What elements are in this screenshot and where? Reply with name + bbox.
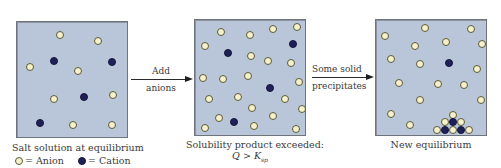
anion-particle-icon	[416, 96, 424, 104]
cation-particle-icon	[445, 59, 453, 67]
panel-new-equilibrium	[375, 19, 487, 136]
anion-particle-icon	[460, 81, 468, 89]
k-symbol: K	[254, 150, 261, 161]
panel-exceeded	[194, 19, 306, 136]
anion-particle-icon	[421, 24, 429, 32]
anion-particle-icon	[109, 91, 117, 99]
anion-particle-icon	[449, 126, 457, 134]
anion-particle-icon	[247, 52, 255, 60]
anion-particle-icon	[69, 121, 77, 129]
anion-particle-icon	[442, 38, 450, 46]
anion-particle-icon	[108, 121, 116, 129]
anion-particle-icon	[381, 32, 389, 40]
cation-particle-icon	[266, 84, 274, 92]
legend-anion-label: = Anion	[25, 155, 64, 166]
q-symbol: Q	[232, 150, 240, 161]
anion-particle-icon	[234, 93, 242, 101]
caption-exceeded-line1: Solubility product exceeded:	[186, 139, 314, 150]
anion-particle-icon	[56, 31, 64, 39]
arrow1-top-label: Add	[130, 66, 192, 76]
anion-particle-icon	[295, 78, 303, 86]
caption-new-equilibrium: New equilibrium	[375, 139, 487, 150]
cation-particle-icon	[224, 49, 232, 57]
arrow1-line	[131, 79, 187, 80]
anion-particle-icon	[434, 80, 442, 88]
cation-particle-icon	[457, 126, 465, 134]
cation-particle-icon	[289, 40, 297, 48]
legend-anion: = Anion	[15, 155, 64, 166]
anion-particle-icon	[205, 95, 213, 103]
anion-particle-icon	[248, 104, 256, 112]
anion-particle-icon	[473, 65, 481, 73]
anion-particle-icon	[387, 55, 395, 63]
anion-particle-icon	[441, 118, 449, 126]
panel-equilibrium	[16, 21, 128, 138]
anion-particle-icon	[293, 23, 301, 31]
anion-particle-icon	[477, 96, 485, 104]
anion-particle-icon	[298, 105, 306, 113]
legend-cation-label: = Cation	[88, 155, 131, 166]
anion-particle-icon	[94, 37, 102, 45]
anion-particle-icon	[287, 59, 295, 67]
anion-particle-icon	[26, 63, 34, 71]
arrow1-bottom-label: anions	[130, 83, 192, 93]
anion-particle-icon	[416, 60, 424, 68]
anion-particle-icon	[201, 124, 209, 132]
cation-particle-icon	[230, 118, 238, 126]
arrow2-line	[312, 77, 368, 78]
arrow2-bottom-label: precipitates	[308, 81, 378, 91]
anion-particle-icon	[217, 28, 225, 36]
anion-legend-icon	[15, 157, 23, 165]
cation-particle-icon	[50, 57, 58, 65]
cation-particle-icon	[80, 93, 88, 101]
anion-particle-icon	[411, 42, 419, 50]
cation-particle-icon	[449, 118, 457, 126]
arrow2-head-icon	[366, 74, 374, 80]
anion-particle-icon	[250, 122, 258, 130]
anion-particle-icon	[292, 125, 300, 133]
anion-particle-icon	[74, 67, 82, 75]
anion-particle-icon	[478, 40, 486, 48]
anion-particle-icon	[215, 114, 223, 122]
anion-particle-icon	[457, 118, 465, 126]
anion-particle-icon	[246, 31, 254, 39]
arrow1-head-icon	[185, 76, 193, 82]
cation-particle-icon	[36, 119, 44, 127]
anion-particle-icon	[387, 110, 395, 118]
caption-exceeded: Solubility product exceeded: Q > Ksp	[186, 139, 314, 165]
caption-exceeded-line2: Q > Ksp	[186, 150, 314, 165]
arrow2-top-label: Some solid	[308, 64, 378, 74]
cation-particle-icon	[108, 58, 116, 66]
anion-particle-icon	[269, 25, 277, 33]
cation-legend-icon	[78, 157, 86, 165]
anion-particle-icon	[199, 74, 207, 82]
anion-particle-icon	[406, 121, 414, 129]
comparison-op: >	[240, 150, 254, 161]
anion-particle-icon	[244, 72, 252, 80]
anion-particle-icon	[395, 79, 403, 87]
sp-subscript: sp	[261, 156, 268, 163]
anion-particle-icon	[269, 112, 277, 120]
caption-equilibrium: Salt solution at equilibrium	[12, 142, 136, 153]
anion-particle-icon	[50, 95, 58, 103]
legend-cation: = Cation	[78, 155, 131, 166]
anion-particle-icon	[219, 75, 227, 83]
anion-particle-icon	[281, 95, 289, 103]
anion-particle-icon	[467, 25, 475, 33]
cation-particle-icon	[441, 126, 449, 134]
anion-particle-icon	[433, 126, 441, 134]
anion-particle-icon	[465, 126, 473, 134]
anion-particle-icon	[201, 42, 209, 50]
anion-particle-icon	[264, 57, 272, 65]
